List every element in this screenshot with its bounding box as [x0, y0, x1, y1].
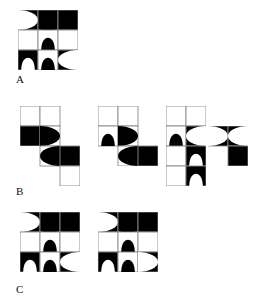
tile-background: [166, 106, 186, 126]
tile-background: [60, 146, 80, 166]
tile-cell: [138, 252, 158, 272]
tile-background: [138, 212, 158, 232]
figure-c-1: [20, 212, 80, 272]
tile-background: [60, 212, 80, 232]
tile-cell: [186, 146, 206, 166]
tile-cell: [138, 146, 158, 166]
tile-cell: [208, 126, 228, 146]
tile-cell: [98, 212, 118, 232]
tile-cell: [186, 166, 206, 186]
tile-background: [40, 106, 60, 126]
tile-background: [20, 232, 40, 252]
tile-cell: [60, 252, 80, 272]
tile-cell: [40, 126, 60, 146]
tile-cell: [166, 166, 186, 186]
figure-b-4-detached: [208, 126, 248, 166]
figure-b-3: [166, 106, 206, 186]
tile-background: [60, 166, 80, 186]
tile-cell: [20, 126, 40, 166]
figure-a-1: [18, 10, 78, 70]
tile-cell: [38, 30, 58, 50]
figure-canvas: ABC: [0, 0, 266, 303]
tile-cell: [40, 212, 60, 232]
tile-cell: [228, 146, 248, 166]
tile-cell: [118, 252, 138, 272]
tile-cell: [118, 232, 138, 252]
figure-b-1: [20, 106, 80, 186]
tile-cell: [166, 146, 186, 166]
tile-background: [228, 146, 248, 166]
figure-b-2: [98, 106, 158, 166]
tile-cell: [186, 106, 206, 126]
tile-cell: [58, 50, 78, 70]
tile-cell: [40, 106, 60, 126]
tile-cell: [40, 146, 60, 166]
tile-cell: [18, 10, 38, 30]
tile-background: [20, 126, 40, 146]
tile-background: [60, 232, 80, 252]
tile-background: [186, 106, 206, 126]
tile-cell: [98, 232, 118, 252]
tile-background: [58, 10, 78, 30]
tile-cell: [18, 30, 38, 50]
tile-background: [98, 106, 118, 126]
group-label-a: A: [16, 74, 24, 85]
tile-motif-half-disc: [20, 146, 40, 166]
tile-background: [166, 146, 186, 166]
tile-cell: [20, 232, 40, 252]
tile-background: [166, 166, 186, 186]
tile-background: [18, 30, 38, 50]
tile-cell: [118, 212, 138, 232]
tile-cell: [138, 232, 158, 252]
tile-cell: [98, 252, 118, 272]
tile-cell: [166, 126, 186, 146]
tile-cell: [20, 252, 40, 272]
tile-cell: [186, 126, 206, 146]
tile-cell: [20, 212, 40, 232]
tile-cell: [98, 106, 118, 126]
tile-cell: [58, 30, 78, 50]
tile-cell: [166, 106, 186, 126]
tile-cell: [98, 126, 118, 146]
tile-cell: [20, 106, 40, 126]
tile-cell: [118, 126, 138, 146]
tile-cell: [118, 146, 138, 166]
tile-background: [138, 146, 158, 166]
figure-c-2: [98, 212, 158, 272]
group-label-b: B: [16, 186, 23, 197]
tile-cell: [38, 50, 58, 70]
tile-background: [98, 232, 118, 252]
tile-background: [118, 106, 138, 126]
tile-background: [138, 232, 158, 252]
tile-cell: [228, 126, 248, 146]
tile-cell: [40, 252, 60, 272]
tile-background: [20, 106, 40, 126]
group-label-c: C: [16, 284, 23, 295]
tile-background: [58, 30, 78, 50]
tile-cell: [40, 232, 60, 252]
tile-cell: [118, 106, 138, 126]
tile-cell: [60, 166, 80, 186]
tile-cell: [18, 50, 38, 70]
tile-cell: [60, 232, 80, 252]
tile-cell: [38, 10, 58, 30]
